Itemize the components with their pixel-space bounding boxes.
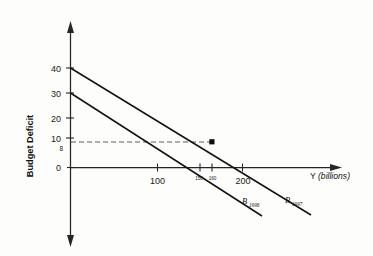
curve-label-1997-subscript: 1997 xyxy=(292,201,303,207)
x-tick-label-160: 160 xyxy=(209,176,217,181)
y-axis-down-arrow-icon xyxy=(67,235,74,247)
x-tick-labels-group: 100 150 160 200 xyxy=(150,176,251,186)
curve-label-1998-base: B xyxy=(242,196,247,206)
y-tick-label-40: 40 xyxy=(51,64,61,74)
y-tick-label-20: 20 xyxy=(51,114,61,124)
y-axis-title: Budget Deficit xyxy=(25,115,35,177)
x-axis-title-group: Y (billions) xyxy=(310,171,350,181)
budget-deficit-chart-figure: 40 30 20 10 8 0 100 150 160 200 xyxy=(0,0,373,256)
x-tick-label-100: 100 xyxy=(150,176,165,186)
curve-label-1997-base: B xyxy=(285,195,290,205)
y-axis-up-arrow-icon xyxy=(67,21,74,33)
x-axis-title-main: Y xyxy=(310,171,316,181)
y-tick-label-0: 0 xyxy=(56,163,61,173)
y-tick-label-10: 10 xyxy=(51,134,61,144)
equilibrium-point-marker xyxy=(209,139,214,144)
y-tick-labels-group: 40 30 20 10 8 0 xyxy=(51,64,63,174)
curve-label-1998-group: B 1998 xyxy=(242,196,260,208)
y-tick-label-8: 8 xyxy=(59,145,63,152)
chart-canvas: 40 30 20 10 8 0 100 150 160 200 xyxy=(0,0,373,256)
y-tick-label-30: 30 xyxy=(51,89,61,99)
curve-label-1997-group: B 1997 xyxy=(285,195,303,207)
x-axis-right-arrow-icon xyxy=(330,164,342,171)
curve-label-1998-subscript: 1998 xyxy=(249,202,260,208)
axes-group xyxy=(67,21,342,247)
budget-line-1998 xyxy=(71,93,263,216)
x-axis-title-units: (billions) xyxy=(318,171,350,181)
budget-line-1997 xyxy=(71,68,312,215)
